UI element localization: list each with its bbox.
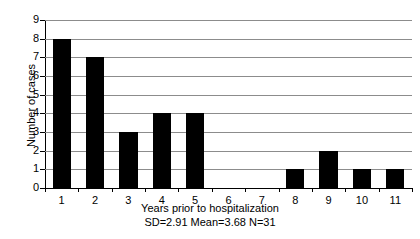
x-axis-title: Years prior to hospitalization (0, 201, 420, 215)
bar-cell (178, 20, 211, 188)
bar (286, 169, 304, 188)
y-tick-label: 9 (19, 14, 39, 25)
x-tick-mark (245, 188, 246, 192)
bar (153, 113, 171, 188)
bar-cell (112, 20, 145, 188)
bar (119, 132, 137, 188)
x-tick-mark (112, 188, 113, 192)
x-tick-mark (345, 188, 346, 192)
y-tick-label: 0 (19, 182, 39, 193)
y-tick-label: 3 (19, 126, 39, 137)
bar-cell (78, 20, 111, 188)
x-tick-mark (379, 188, 380, 192)
x-tick-mark (312, 188, 313, 192)
y-tick-label: 8 (19, 33, 39, 44)
bar-series (45, 20, 412, 188)
statistics-annotation: SD=2.91 Mean=3.68 N=31 (0, 215, 420, 229)
x-tick-mark (45, 188, 46, 192)
bar (319, 151, 337, 188)
bar-cell (145, 20, 178, 188)
plot-area: 0123456789 1234567891011 (45, 20, 412, 188)
x-tick-mark (279, 188, 280, 192)
bar (86, 57, 104, 188)
bar-cell (245, 20, 278, 188)
y-tick-label: 4 (19, 107, 39, 118)
bar (53, 39, 71, 188)
bar (186, 113, 204, 188)
bar (353, 169, 371, 188)
y-tick-label: 5 (19, 89, 39, 100)
bar (386, 169, 404, 188)
bar-cell (45, 20, 78, 188)
x-tick-mark (78, 188, 79, 192)
bar-cell (279, 20, 312, 188)
bar-cell (212, 20, 245, 188)
x-tick-mark (412, 188, 413, 192)
chart-caption: Years prior to hospitalization SD=2.91 M… (0, 201, 420, 229)
bar-chart-figure: Number of cases 0123456789 1234567891011… (0, 0, 420, 239)
y-tick-label: 2 (19, 145, 39, 156)
x-tick-mark (145, 188, 146, 192)
x-axis-line (45, 188, 412, 189)
x-tick-mark (212, 188, 213, 192)
bar-cell (379, 20, 412, 188)
x-tick-mark (178, 188, 179, 192)
bar-cell (345, 20, 378, 188)
y-tick-label: 1 (19, 163, 39, 174)
y-tick-label: 6 (19, 70, 39, 81)
bar-cell (312, 20, 345, 188)
y-tick-label: 7 (19, 51, 39, 62)
